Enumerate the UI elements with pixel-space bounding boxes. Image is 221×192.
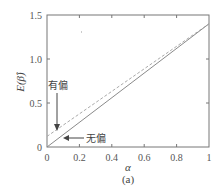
x-tick-label: 0.2 [73, 152, 86, 163]
x-axis-label: α [125, 161, 131, 173]
chart: 0 0.2 0.4 0.6 0.8 1 0 0.5 1.0 1.5 α (a) … [0, 0, 221, 192]
series-unbiased-line [47, 24, 209, 147]
x-tick-label: 0 [45, 152, 50, 163]
x-tick-label: 1 [207, 152, 212, 163]
annotation-biased-label: 有偏 [48, 79, 68, 91]
series-biased-line [47, 24, 209, 137]
y-tick-marks [47, 59, 209, 103]
x-tick-marks [79, 15, 176, 147]
y-tick-label: 1.0 [30, 54, 43, 65]
y-axis-label: E(β̂) [14, 71, 27, 93]
x-tick-label: 0.4 [106, 152, 119, 163]
y-tick-label: 0 [37, 142, 42, 153]
annotation-unbiased-label: 无偏 [86, 132, 106, 144]
x-tick-label: 0.8 [170, 152, 183, 163]
y-tick-label: 1.5 [30, 10, 43, 21]
arrow-left-icon [63, 135, 69, 141]
caption: (a) [122, 173, 135, 186]
plot-frame [47, 15, 209, 147]
y-tick-label: 0.5 [30, 98, 43, 109]
x-tick-label: 0.6 [138, 152, 151, 163]
